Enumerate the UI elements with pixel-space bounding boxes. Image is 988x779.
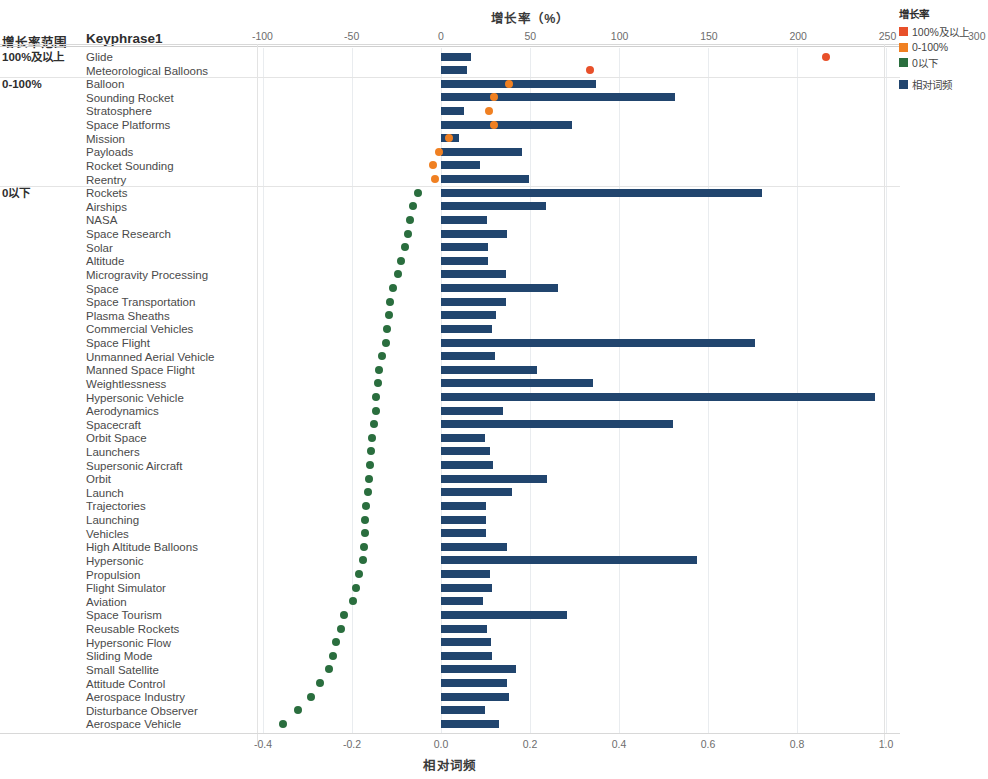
row-label[interactable]: Trajectories (86, 501, 146, 512)
row-label[interactable]: Space Transportation (86, 297, 195, 308)
legend-items: 100%及以上0-100%0以下相对词频 (899, 24, 988, 92)
row-label[interactable]: Spacecraft (86, 420, 141, 431)
bar (441, 652, 492, 660)
row-label[interactable]: Space Tourism (86, 610, 162, 621)
row-label[interactable]: Rocket Sounding (86, 161, 174, 172)
top-axis-title: 增长率（%） (440, 8, 620, 27)
bar (441, 66, 467, 74)
plot-frame-top (0, 44, 900, 45)
row-label[interactable]: Propulsion (86, 570, 140, 581)
growth-rate-dot (307, 693, 315, 701)
vertical-gridline (263, 48, 264, 733)
row-label[interactable]: Glide (86, 52, 113, 63)
row-label[interactable]: Hypersonic (86, 556, 144, 567)
vertical-gridline (619, 48, 620, 733)
row-label[interactable]: Mission (86, 134, 125, 145)
row-label[interactable]: Manned Space Flight (86, 365, 195, 376)
growth-rate-dot (372, 407, 380, 415)
top-axis-tick-label: 200 (789, 30, 807, 42)
row-label[interactable]: Meteorological Balloons (86, 66, 208, 77)
row-label[interactable]: High Altitude Balloons (86, 542, 198, 553)
row-label[interactable]: Flight Simulator (86, 583, 166, 594)
growth-rate-dot (485, 107, 493, 115)
bottom-axis-title: 相对词频 (350, 755, 550, 774)
row-label[interactable]: Launching (86, 515, 139, 526)
bar (441, 189, 762, 197)
bottom-axis-tick-label: 0.2 (523, 738, 538, 750)
row-label[interactable]: Hypersonic Flow (86, 638, 171, 649)
growth-rate-dot (404, 230, 412, 238)
row-label[interactable]: Attitude Control (86, 679, 165, 690)
legend-item-growth-bucket[interactable]: 0以下 (899, 55, 988, 70)
group-label[interactable]: 0以下 (2, 188, 30, 199)
row-label[interactable]: Launchers (86, 447, 140, 458)
row-label[interactable]: Space Flight (86, 338, 150, 349)
growth-rate-dot (294, 706, 302, 714)
row-label[interactable]: Supersonic Aircraft (86, 461, 183, 472)
bar (441, 121, 572, 129)
row-label[interactable]: Orbit (86, 474, 111, 485)
growth-rate-dot (822, 53, 830, 61)
row-label[interactable]: Space (86, 284, 119, 295)
row-label[interactable]: Space Research (86, 229, 171, 240)
row-label[interactable]: NASA (86, 215, 117, 226)
row-label[interactable]: Stratosphere (86, 106, 152, 117)
row-label[interactable]: Hypersonic Vehicle (86, 393, 184, 404)
row-label[interactable]: Aerospace Vehicle (86, 719, 181, 730)
row-label[interactable]: Payloads (86, 147, 133, 158)
row-label[interactable]: Altitude (86, 256, 124, 267)
row-label[interactable]: Plasma Sheaths (86, 311, 170, 322)
growth-rate-dot (337, 625, 345, 633)
row-label[interactable]: Reentry (86, 175, 126, 186)
row-label[interactable]: Orbit Space (86, 433, 147, 444)
bar (441, 107, 464, 115)
row-label[interactable]: Launch (86, 488, 124, 499)
row-label[interactable]: Disturbance Observer (86, 706, 198, 717)
row-label[interactable]: Solar (86, 243, 113, 254)
vertical-gridline (886, 48, 887, 733)
group-separator (0, 77, 900, 78)
row-label[interactable]: Airships (86, 202, 127, 213)
group-label[interactable]: 0-100% (2, 79, 42, 90)
growth-rate-dot (360, 543, 368, 551)
growth-rate-dot (383, 325, 391, 333)
bar (441, 461, 493, 469)
legend-item-series[interactable]: 相对词频 (899, 77, 988, 92)
vertical-gridline (797, 48, 798, 733)
legend-item-growth-bucket[interactable]: 100%及以上 (899, 24, 988, 39)
row-label[interactable]: Sounding Rocket (86, 93, 174, 104)
row-label[interactable]: Reusable Rockets (86, 624, 179, 635)
row-label[interactable]: Space Platforms (86, 120, 170, 131)
bar (441, 175, 529, 183)
bottom-axis-tick-label: 1.0 (879, 738, 894, 750)
bar (441, 420, 673, 428)
bar (441, 270, 506, 278)
row-label[interactable]: Weightlessness (86, 379, 166, 390)
legend-label: 相对词频 (912, 77, 952, 92)
row-label[interactable]: Unmanned Aerial Vehicle (86, 352, 215, 363)
row-label[interactable]: Vehicles (86, 529, 129, 540)
row-label[interactable]: Balloon (86, 79, 124, 90)
legend-item-growth-bucket[interactable]: 0-100% (899, 41, 988, 53)
row-label[interactable]: Aviation (86, 597, 127, 608)
group-label[interactable]: 100%及以上 (2, 52, 64, 63)
row-label[interactable]: Microgravity Processing (86, 270, 208, 281)
growth-rate-dot (364, 488, 372, 496)
vertical-gridline (530, 48, 531, 733)
row-label[interactable]: Sliding Mode (86, 651, 152, 662)
chart-page: 增长率（%） 增长率范围 Keyphrase1 -100-50050100150… (0, 0, 988, 779)
bar (441, 216, 487, 224)
growth-rate-dot (386, 298, 394, 306)
bar (441, 584, 492, 592)
bar (441, 243, 488, 251)
row-label[interactable]: Rockets (86, 188, 128, 199)
bar (441, 379, 593, 387)
row-label[interactable]: Commercial Vehicles (86, 324, 193, 335)
row-label[interactable]: Aerospace Industry (86, 692, 185, 703)
growth-rate-dot (435, 148, 443, 156)
top-axis-tick-label: 50 (524, 30, 536, 42)
growth-rate-dot (414, 189, 422, 197)
legend-label: 0以下 (912, 55, 938, 70)
row-label[interactable]: Aerodynamics (86, 406, 159, 417)
row-label[interactable]: Small Satellite (86, 665, 159, 676)
